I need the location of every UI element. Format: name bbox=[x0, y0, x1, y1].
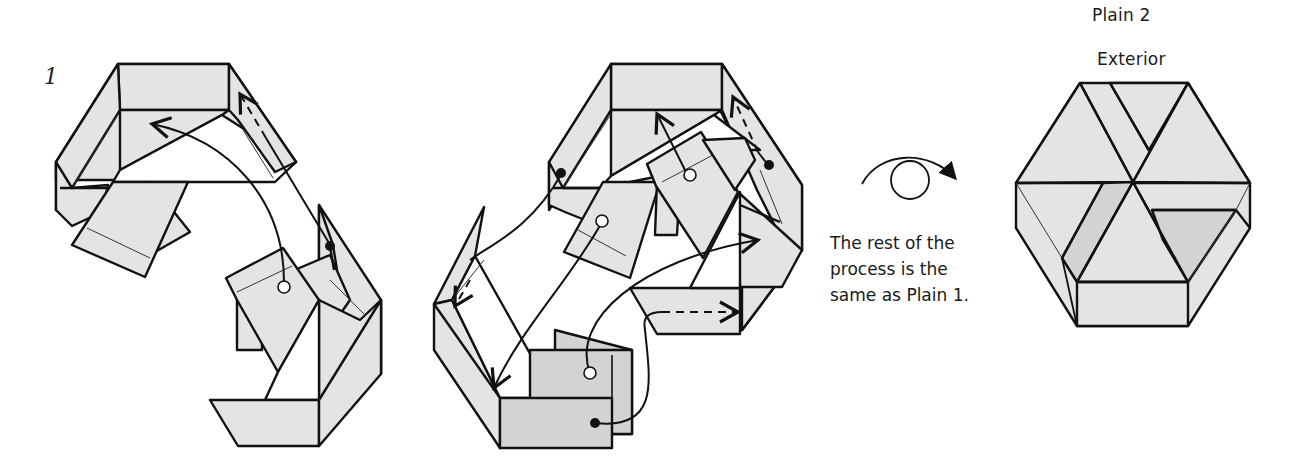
origami-diagram bbox=[0, 0, 1299, 474]
filled-circle-marker bbox=[764, 160, 774, 170]
filled-circle-marker bbox=[590, 418, 600, 428]
figure-step-1-middle bbox=[434, 64, 802, 448]
figure-step-1-left bbox=[56, 64, 381, 446]
figure-result-exterior bbox=[1016, 83, 1250, 326]
open-circle-marker bbox=[684, 169, 696, 181]
open-circle-marker bbox=[596, 215, 608, 227]
open-circle-marker bbox=[584, 367, 596, 379]
filled-circle-marker bbox=[556, 168, 566, 178]
open-circle-marker bbox=[278, 281, 290, 293]
turn-over-icon bbox=[862, 158, 955, 199]
